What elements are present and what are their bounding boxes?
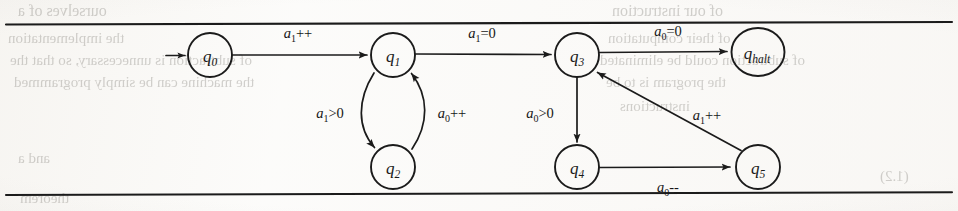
edge-label-q2-to-q1: a0++ [438, 105, 467, 124]
node-q5-label: q5 [751, 159, 766, 180]
node-q0[interactable]: q0 [188, 33, 232, 77]
edge-label-q1-to-q3: a1=0 [468, 25, 496, 44]
node-qhalt-label: qhalt [744, 44, 771, 65]
horizontal-rule-top [6, 22, 952, 25]
edge-label-q4-to-q5: a0-- [657, 179, 679, 198]
node-qhalt[interactable]: qhalt [732, 28, 785, 76]
edge-q1-to-q2 [361, 73, 374, 148]
node-q4[interactable]: q4 [555, 145, 599, 189]
edge-label-q1-to-q2: a1>0 [316, 105, 344, 124]
edge-label-q5-to-q3: a1++ [693, 107, 722, 126]
edge-q4-to-q5 [600, 167, 731, 168]
scanned-page: ourselves of aof our instructionthe impl… [0, 0, 958, 211]
node-q4-label: q4 [570, 159, 585, 180]
node-q1[interactable]: q1 [371, 33, 415, 77]
node-q3[interactable]: q3 [555, 33, 599, 77]
node-q3-label: q3 [570, 47, 585, 68]
node-q2[interactable]: q2 [371, 145, 415, 189]
edge-q1-to-q3 [416, 54, 552, 55]
edge-label-q0-to-q1: a1++ [284, 25, 313, 44]
edge-q3-to-qhalt [600, 52, 728, 53]
node-q5[interactable]: q5 [736, 145, 780, 189]
edge-label-q3-to-qhalt: a0=0 [654, 23, 682, 42]
node-q2-label: q2 [386, 159, 401, 180]
state-diagram-canvas: q0 q1 q2 q3 q4 q5 qhalt a1++ a1=0 [0, 0, 958, 211]
edge-q2-to-q1 [412, 74, 425, 150]
edge-label-q3-to-q4: a0>0 [526, 105, 554, 124]
node-q1-label: q1 [386, 47, 400, 68]
horizontal-rule-bottom [6, 192, 952, 195]
node-q0-label: q0 [203, 47, 218, 68]
